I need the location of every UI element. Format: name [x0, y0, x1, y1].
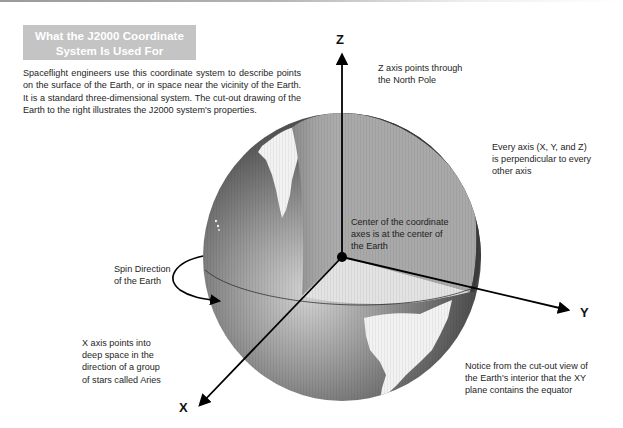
y-axis-label: Y	[580, 305, 589, 320]
z-axis-annotation: Z axis points through the North Pole	[378, 62, 462, 86]
origin-point	[337, 252, 347, 262]
z-axis-label: Z	[336, 32, 344, 47]
x-axis-label: X	[179, 400, 188, 415]
center-annotation: Center of the coordinate axes is at the …	[351, 216, 449, 253]
x-axis-annotation: X axis points into deep space in the dir…	[82, 337, 161, 386]
xy-plane-annotation: Notice from the cut-out view of the Eart…	[465, 360, 588, 397]
spin-direction-annotation: Spin Direction of the Earth	[114, 263, 171, 287]
perpendicular-annotation: Every axis (X, Y, and Z) is perpendicula…	[492, 141, 591, 178]
